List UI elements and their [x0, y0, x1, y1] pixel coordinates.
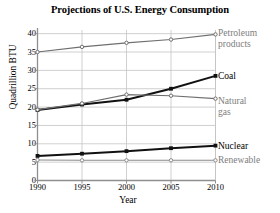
series-label-nuclear: Nuclear [218, 141, 248, 152]
data-point-marker [169, 38, 172, 41]
data-point-marker [80, 152, 84, 156]
series-label-line: Natural [218, 96, 247, 107]
data-point-marker [214, 33, 217, 36]
data-point-marker [36, 154, 40, 158]
series-label-renewable: Renewable [218, 155, 260, 166]
series-label-line: Nuclear [218, 141, 248, 152]
data-point-marker [214, 144, 218, 148]
data-point-marker [214, 159, 217, 162]
series-label-line: gas [218, 107, 247, 118]
data-point-marker [80, 45, 83, 48]
series-label-line: Coal [218, 71, 236, 82]
data-point-marker [36, 50, 39, 53]
data-point-marker [125, 41, 128, 44]
data-point-marker [36, 158, 39, 161]
data-point-marker [36, 108, 39, 111]
data-point-marker [125, 149, 129, 153]
series-label-petroleum-products: Petroleumproducts [218, 28, 257, 50]
data-point-marker [125, 98, 129, 102]
data-point-marker [169, 146, 173, 150]
series-label-line: products [218, 39, 257, 50]
data-point-marker [125, 159, 128, 162]
series-label-natural-gas: Naturalgas [218, 96, 247, 118]
data-point-marker [169, 94, 172, 97]
series-label-line: Renewable [218, 155, 260, 166]
series-label-line: Petroleum [218, 28, 257, 39]
data-point-marker [214, 74, 218, 78]
data-point-marker [80, 102, 83, 105]
data-point-marker [169, 159, 172, 162]
data-point-marker [169, 87, 173, 91]
energy-consumption-line-chart: Projections of U.S. Energy Consumption Q… [0, 0, 280, 213]
data-point-marker [80, 159, 83, 162]
data-point-marker [214, 97, 217, 100]
data-point-marker [125, 93, 128, 96]
series-label-coal: Coal [218, 71, 236, 82]
